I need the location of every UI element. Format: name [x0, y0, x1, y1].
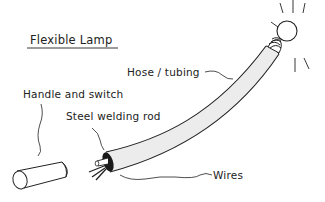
handle-leader-line	[38, 104, 42, 156]
wires-leader-line	[120, 174, 212, 180]
diagram-title: Flexible Lamp	[30, 33, 112, 47]
handle-label: Handle and switch	[23, 88, 123, 100]
flexible-lamp-diagram: Flexible Lamp	[0, 0, 325, 202]
hose-label: Hose / tubing	[127, 66, 200, 78]
wires-label: Wires	[213, 169, 243, 181]
rod-label: Steel welding rod	[66, 110, 161, 122]
light-bulb	[277, 21, 297, 41]
wires	[89, 166, 106, 180]
handle-cylinder	[11, 162, 67, 191]
hose-leader-line	[205, 71, 233, 79]
rod-leader-line	[92, 128, 104, 150]
